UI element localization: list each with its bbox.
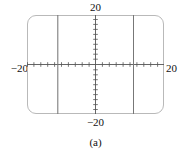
axis-label-left: −20 — [2, 63, 28, 74]
figure-caption: (a) — [0, 136, 191, 148]
axis-label-top: 20 — [0, 2, 191, 13]
axis-label-right: 20 — [166, 63, 190, 74]
figure-container: 20 −20 20 −20 — [0, 0, 191, 157]
axis-label-bottom: −20 — [0, 117, 191, 128]
graph-plot — [27, 15, 164, 114]
